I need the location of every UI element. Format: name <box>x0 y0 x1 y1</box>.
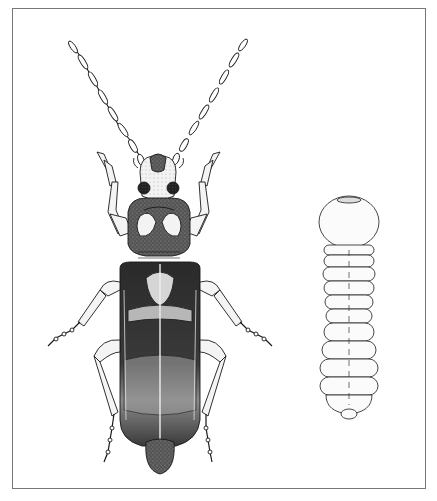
beetle <box>48 38 272 474</box>
larva <box>319 196 379 419</box>
beetle-pronotum <box>128 198 190 258</box>
hind-leg-left <box>94 340 120 462</box>
hind-leg-right <box>200 340 226 462</box>
beetle-elytra <box>120 262 200 446</box>
middle-leg-left <box>48 281 120 346</box>
beetle-abdomen-tip <box>146 439 174 474</box>
antenna-right <box>171 38 249 166</box>
middle-leg-right <box>200 281 272 346</box>
larva-head <box>319 196 379 248</box>
front-leg-left <box>97 152 132 236</box>
antenna-left <box>67 40 146 167</box>
illustration-canvas <box>0 0 437 501</box>
